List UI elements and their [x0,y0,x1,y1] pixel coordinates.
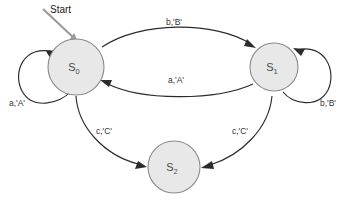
state-s2[interactable]: S2 [148,141,200,193]
start-label: Start [50,4,71,15]
transition-s0-s1-top-label: b,'B' [166,17,182,27]
transition-s0-s1-top [102,27,256,48]
transition-s1-s0-mid-path [106,83,253,97]
transition-s0-s1-top-path [102,27,251,47]
state-s1[interactable]: S1 [250,43,298,91]
transition-s1-s0-mid-arrowhead [100,80,112,87]
state-s2-letter: S [166,161,173,173]
state-s0[interactable]: S0 [48,39,104,95]
state-s2-subscript: 2 [174,167,178,176]
transition-s0-self-label: a,'A' [9,98,25,108]
state-s0-letter: S [68,61,75,73]
transition-s1-s2-arrowhead [201,161,214,169]
state-s0-subscript: 0 [76,67,80,76]
state-s1-letter: S [266,61,273,73]
state-s1-subscript: 1 [274,67,278,76]
transition-s1-self-label: b,'B' [320,98,336,108]
transition-s0-s2-arrowhead [135,161,147,169]
transition-s1-s2-label: c,'C' [232,126,248,136]
transition-s1-s0-mid-label: a,'A' [168,75,184,85]
transition-s0-s2-label: c,'C' [96,126,112,136]
state-machine-diagram: Start b,'B' a,'A' a,'A' b,'B' [0,0,348,200]
fsm-canvas: Start b,'B' a,'A' a,'A' b,'B' [0,0,348,200]
